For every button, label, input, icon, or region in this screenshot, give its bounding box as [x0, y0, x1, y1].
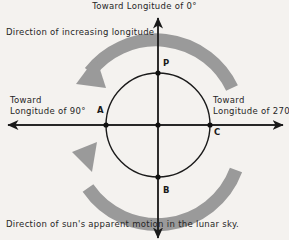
label-toward-longitude-0: Toward Longitude of 0° — [92, 1, 197, 12]
label-toward-longitude-270-line2: Longitude of 270° — [213, 106, 289, 117]
sun-motion-arc — [88, 170, 236, 225]
increasing-longitude-arc — [90, 40, 232, 88]
point-label-b: B — [163, 185, 169, 195]
label-toward-longitude-90: Toward Longitude of 90° — [10, 95, 86, 116]
point-center-marker — [155, 122, 160, 127]
label-toward-longitude-270: Toward Longitude of 270° — [213, 95, 289, 116]
label-direction-increasing-longitude: Direction of increasing longitude — [6, 27, 154, 38]
rotation-arrows-group — [72, 40, 236, 225]
point-label-p: P — [163, 58, 169, 68]
sun-motion-arrowhead — [72, 142, 97, 172]
point-c-marker — [207, 122, 212, 127]
point-label-a: A — [97, 105, 104, 115]
label-toward-longitude-90-line2: Longitude of 90° — [10, 106, 86, 117]
label-toward-longitude-270-line1: Toward — [213, 95, 289, 106]
point-a-marker — [103, 122, 108, 127]
point-p-marker — [155, 70, 160, 75]
label-toward-longitude-90-line1: Toward — [10, 95, 86, 106]
point-b-marker — [155, 174, 160, 179]
lunar-longitude-diagram: Toward Longitude of 0° Direction of incr… — [0, 0, 289, 240]
point-label-c: C — [214, 127, 220, 137]
label-sun-apparent-motion: Direction of sun's apparent motion in th… — [6, 219, 239, 230]
